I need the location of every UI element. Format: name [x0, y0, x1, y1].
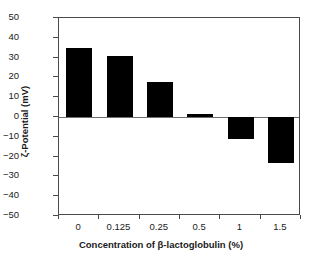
y-tick-label: 20: [0, 72, 19, 82]
y-tick-label: −50: [0, 210, 19, 220]
y-tick-label: −30: [0, 171, 19, 181]
bar: [268, 117, 294, 163]
x-tick-mark: [179, 215, 180, 219]
y-tick-label: −40: [0, 190, 19, 200]
plot-area: [58, 17, 300, 215]
y-tick-label: −20: [0, 151, 19, 161]
chart-figure: ζ-Potential (mV) 50403020100−10−20−30−40…: [0, 0, 322, 263]
x-axis-title: Concentration of β-lactoglobulin (%): [0, 239, 322, 250]
bar: [228, 117, 254, 139]
x-tick-mark: [58, 215, 59, 219]
bar: [66, 48, 92, 117]
bars-layer: [59, 18, 299, 214]
x-tick-mark: [219, 215, 220, 219]
x-tick-mark: [139, 215, 140, 219]
x-tick-mark: [300, 215, 301, 219]
bar: [187, 114, 213, 117]
y-axis-title: ζ-Potential (mV): [19, 47, 30, 197]
x-tick-mark: [98, 215, 99, 219]
y-tick-label: 50: [0, 12, 19, 22]
y-tick-label: 30: [0, 52, 19, 62]
x-tick-label: 1.5: [255, 221, 305, 232]
x-tick-mark: [260, 215, 261, 219]
y-tick-label: 0: [0, 111, 19, 121]
y-tick-label: 40: [0, 32, 19, 42]
y-tick-label: −10: [0, 131, 19, 141]
bar: [147, 82, 173, 117]
bar: [107, 56, 133, 117]
y-tick-label: 10: [0, 91, 19, 101]
